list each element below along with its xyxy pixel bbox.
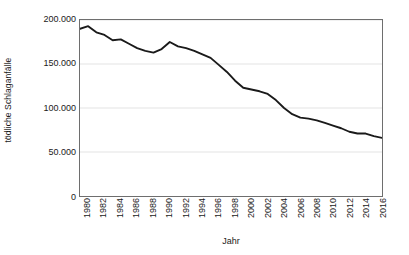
x-tick-label: 1988 <box>149 198 158 232</box>
x-tick-label: 2000 <box>247 198 256 232</box>
y-tick-label: 100.000 <box>22 104 76 113</box>
x-tick-label: 2004 <box>280 198 289 232</box>
x-tick-label: 1982 <box>99 198 108 232</box>
y-tick-label: 50.000 <box>22 148 76 157</box>
plot-area <box>79 19 383 197</box>
y-tick-label: 200.000 <box>22 15 76 24</box>
x-tick-label: 2006 <box>297 198 306 232</box>
x-tick-label: 2016 <box>379 198 388 232</box>
chart-figure: tödliche Schlaganfälle 050.000100.000150… <box>0 0 409 255</box>
x-tick-label: 1990 <box>165 198 174 232</box>
chart-plot-svg <box>80 20 382 196</box>
data-series-line <box>80 26 382 138</box>
x-tick-label: 2012 <box>346 198 355 232</box>
y-axis-title: tödliche Schlaganfälle <box>0 0 16 200</box>
y-tick-label: 150.000 <box>22 59 76 68</box>
x-tick-label: 1986 <box>132 198 141 232</box>
x-tick-label: 1998 <box>231 198 240 232</box>
x-tick-label: 2008 <box>313 198 322 232</box>
x-axis-tick-labels: 1980198219841986198819901992199419961998… <box>79 198 383 238</box>
x-tick-label: 1994 <box>198 198 207 232</box>
x-tick-label: 1992 <box>182 198 191 232</box>
x-tick-label: 1984 <box>116 198 125 232</box>
x-axis-title: Jahr <box>79 236 383 246</box>
y-axis-tick-labels: 050.000100.000150.000200.000 <box>20 0 76 255</box>
x-tick-label: 2002 <box>264 198 273 232</box>
gridlines <box>80 20 382 152</box>
x-tick-label: 1980 <box>83 198 92 232</box>
x-tick-label: 2014 <box>362 198 371 232</box>
x-tick-label: 1996 <box>214 198 223 232</box>
x-tick-label: 2010 <box>329 198 338 232</box>
y-axis-title-text: tödliche Schlaganfälle <box>3 58 13 143</box>
y-tick-label: 0 <box>22 193 76 202</box>
